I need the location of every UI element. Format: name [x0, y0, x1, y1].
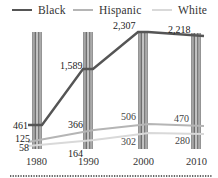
label-white-2010: 280: [175, 135, 190, 146]
column-2010: [191, 33, 201, 149]
label-white-1980: 58: [19, 142, 29, 153]
label-hispanic-1990: 366: [68, 119, 83, 130]
x-tick-2000: 2000: [133, 156, 154, 167]
label-hispanic-2000: 506: [121, 111, 136, 122]
x-tick-1990: 1990: [78, 156, 99, 167]
series-line-black: [28, 32, 204, 125]
x-tick-2010: 2010: [186, 156, 207, 167]
label-white-2000: 302: [121, 136, 136, 147]
column-1980: [32, 32, 42, 149]
column-2000: [138, 31, 148, 149]
label-black-2010: 2,218: [168, 24, 191, 35]
label-black-1990: 1,589: [60, 60, 83, 71]
label-hispanic-2010: 470: [174, 113, 189, 124]
label-black-1980: 461: [13, 120, 28, 131]
label-black-2000: 2,307: [113, 20, 136, 31]
x-tick-1980: 1980: [26, 156, 47, 167]
line-chart: 461 1,589 2,307 2,218 125 366 506 470 58…: [0, 0, 218, 178]
